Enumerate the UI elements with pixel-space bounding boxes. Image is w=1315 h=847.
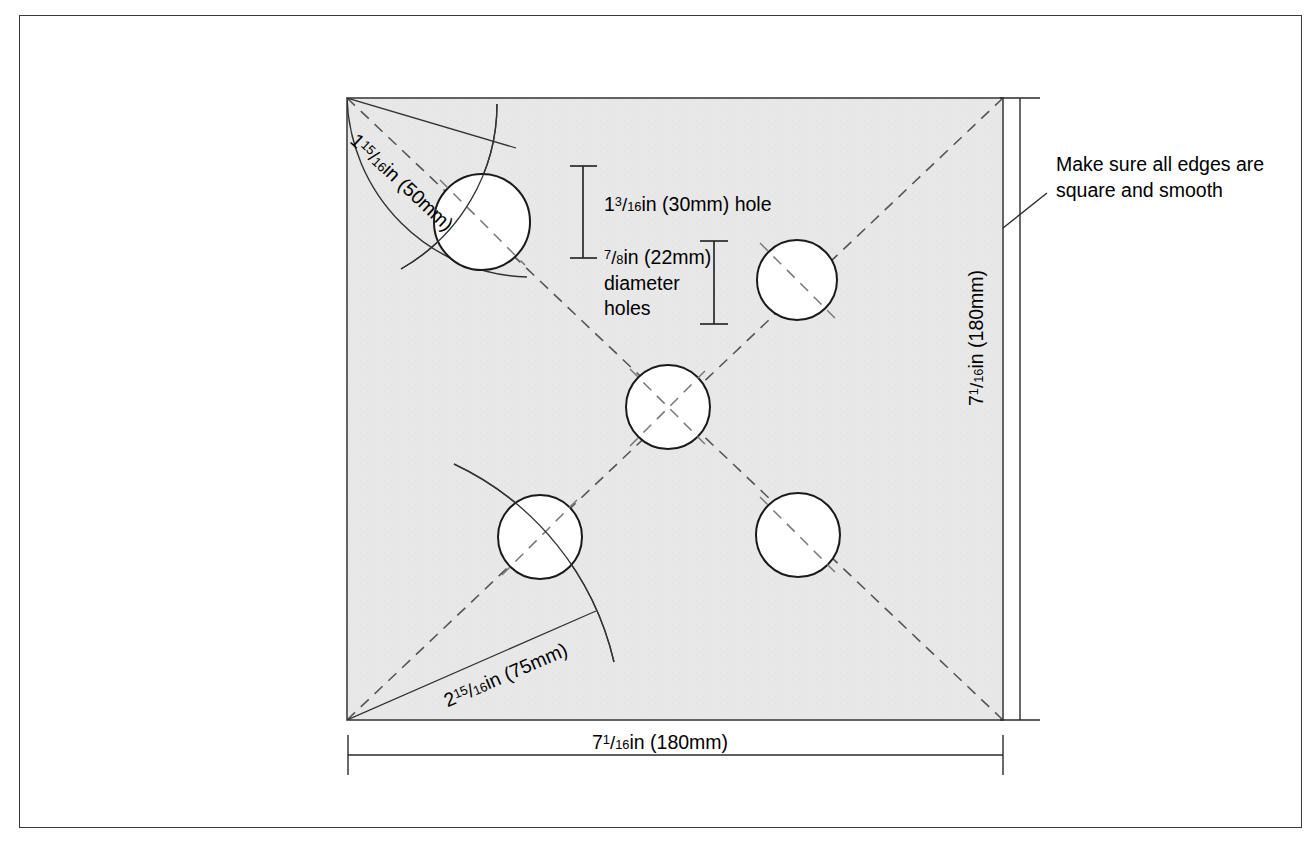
fraction-7-8: 7/8	[604, 245, 623, 271]
label-hole-22-line3: holes	[604, 297, 651, 319]
hole-top-right	[757, 240, 837, 320]
dimension-right-vertical	[1000, 98, 1040, 720]
label-dimension-height: 71/16in (180mm)	[964, 270, 989, 406]
note-edges-square-and-smooth: Make sure all edges are square and smoot…	[1056, 152, 1286, 204]
leader-line-edge-note	[1003, 193, 1047, 228]
label-hole-22-suffix: in (22mm)	[623, 246, 711, 268]
fraction-1-3-16: 13/16	[604, 192, 641, 217]
technical-drawing-canvas	[0, 0, 1315, 847]
fraction-7-1-16-bottom: 71/16	[592, 730, 629, 755]
label-dim-right-suffix: in (180mm)	[965, 270, 987, 369]
drawing-page: 13/16in (30mm) hole 7/8in (22mm) diamete…	[0, 0, 1315, 847]
label-hole-30-suffix: in (30mm) hole	[641, 193, 771, 215]
label-hole-diameter-30mm: 13/16in (30mm) hole	[604, 192, 772, 217]
label-dimension-width: 71/16in (180mm)	[592, 730, 728, 755]
label-hole-22-line2: diameter	[604, 272, 680, 294]
label-hole-diameter-22mm: 7/8in (22mm) diameter holes	[604, 245, 724, 322]
label-dim-bottom-suffix: in (180mm)	[629, 731, 728, 753]
fraction-7-1-16-right: 71/16	[964, 369, 989, 406]
